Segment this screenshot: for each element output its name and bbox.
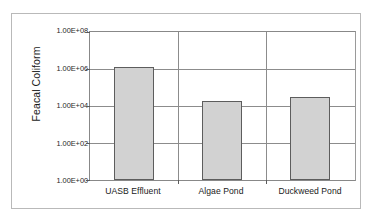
- plot-area: [89, 31, 356, 181]
- bar-uasb-effluent[interactable]: [114, 67, 154, 180]
- x-axis-tick-labels: UASB Effluent Algae Pond Duckweed Pond: [89, 186, 356, 200]
- y-axis-tick-labels: 1.00E+08 1.00E+06 1.00E+04 1.00E+02 1.00…: [40, 31, 88, 181]
- y-tick-label: 1.00E+08: [40, 27, 88, 35]
- bar-duckweed-pond[interactable]: [290, 97, 330, 180]
- category-divider-1: [178, 32, 179, 180]
- x-tickmark-1: [178, 180, 179, 184]
- bar-algae-pond[interactable]: [202, 101, 242, 180]
- y-tick-label: 1.00E+06: [40, 65, 88, 73]
- y-tickmark-1e06: [86, 69, 90, 70]
- x-tick-label-algae-pond: Algae Pond: [177, 186, 265, 196]
- y-tickmark-1e08: [86, 32, 90, 33]
- y-tick-label: 1.00E+04: [40, 102, 88, 110]
- x-tick-label-duckweed-pond: Duckweed Pond: [265, 186, 355, 196]
- y-tick-label: 1.00E+00: [40, 177, 88, 185]
- chart-figure: Feacal Coliform 1.00E+08 1.00E+06 1.00E+…: [11, 13, 361, 209]
- x-tick-label-uasb-effluent: UASB Effluent: [89, 186, 177, 196]
- y-tickmark-1e00: [86, 180, 90, 181]
- x-tickmark-2: [266, 180, 267, 184]
- y-tickmark-1e04: [86, 106, 90, 107]
- y-tick-label: 1.00E+02: [40, 140, 88, 148]
- category-divider-2: [266, 32, 267, 180]
- y-tickmark-1e02: [86, 143, 90, 144]
